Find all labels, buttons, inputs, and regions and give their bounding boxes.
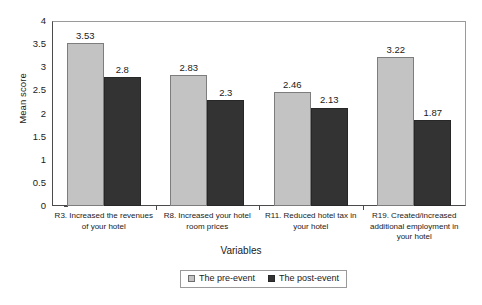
bar-pre-event xyxy=(377,57,414,206)
bar-value-label: 2.13 xyxy=(303,95,356,105)
bar-value-label: 2.83 xyxy=(162,63,215,73)
bar-post-event xyxy=(207,100,244,206)
x-category-label-line: your hotel xyxy=(359,232,471,243)
x-category-label-line: of your hotel xyxy=(48,222,160,233)
legend-item-post-event: The post-event xyxy=(268,273,339,284)
x-category-label: R11. Reduced hotel tax inyour hotel xyxy=(255,211,367,232)
bar-value-label: 2.46 xyxy=(266,80,319,90)
y-axis-ticks: 43.532.521.510.50 xyxy=(16,0,46,305)
x-tick-mark xyxy=(156,206,157,210)
y-tick-label: 0.5 xyxy=(20,178,46,188)
y-tick-label: 1.5 xyxy=(20,132,46,142)
y-tick-label: 2.5 xyxy=(20,85,46,95)
x-category-label-line: your hotel xyxy=(255,222,367,233)
legend-swatch-pre-event-icon xyxy=(188,275,195,282)
bar-pre-event xyxy=(274,92,311,206)
x-tick-mark xyxy=(259,206,260,210)
x-category-label-line: R11. Reduced hotel tax in xyxy=(255,211,367,222)
y-tick-label: 0 xyxy=(20,201,46,211)
y-tick-label: 1 xyxy=(20,155,46,165)
bar-value-label: 3.53 xyxy=(59,31,112,41)
x-category-label: R8. Increased your hotelroom prices xyxy=(152,211,264,232)
x-category-label-line: R19. Created/increased xyxy=(359,211,471,222)
bar-post-event xyxy=(311,108,348,207)
legend-label-post-event: The post-event xyxy=(279,273,339,284)
legend-item-pre-event: The pre-event xyxy=(188,273,255,284)
bar-post-event xyxy=(104,77,141,207)
x-category-label-line: additional employment in xyxy=(359,222,471,233)
y-tick-label: 3 xyxy=(20,62,46,72)
legend-label-pre-event: The pre-event xyxy=(199,273,255,284)
x-tick-mark xyxy=(363,206,364,210)
bar-post-event xyxy=(414,120,451,206)
x-category-label-line: R8. Increased your hotel xyxy=(152,211,264,222)
x-category-label-line: room prices xyxy=(152,222,264,233)
x-category-label-line: R3. Increased the revenues xyxy=(48,211,160,222)
chart-legend: The pre-event The post-event xyxy=(180,270,347,288)
bar-value-label: 1.87 xyxy=(406,108,459,118)
y-tick-label: 2 xyxy=(20,109,46,119)
legend-swatch-post-event-icon xyxy=(268,275,275,282)
y-tick-mark xyxy=(64,206,68,207)
x-category-label: R3. Increased the revenuesof your hotel xyxy=(48,211,160,232)
y-tick-label: 4 xyxy=(20,16,46,26)
x-axis-title: Variables xyxy=(0,245,482,256)
bar-value-label: 2.8 xyxy=(96,65,149,75)
x-category-label: R19. Created/increasedadditional employm… xyxy=(359,211,471,243)
bar-chart: Mean score 43.532.521.510.50 R3. Increas… xyxy=(0,0,482,305)
bar-value-label: 2.3 xyxy=(199,88,252,98)
bar-value-label: 3.22 xyxy=(369,45,422,55)
y-tick-label: 3.5 xyxy=(20,39,46,49)
